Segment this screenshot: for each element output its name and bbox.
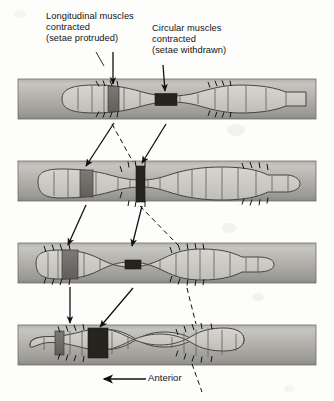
longitudinal-band-4 — [55, 331, 64, 355]
track-2to3-longitudinal — [68, 205, 86, 245]
stage-4 — [18, 323, 316, 365]
circular-band-2 — [136, 166, 145, 202]
label-longitudinal-muscles: Longitudinal muscles contracted (setae p… — [46, 11, 134, 45]
leader-longitudinal-tick — [96, 52, 104, 66]
longitudinal-band-2 — [80, 170, 93, 197]
track-2to3-setae-dashed — [140, 206, 178, 245]
label-anterior: Anterior — [148, 372, 182, 383]
track-4-setae-dashed-tail — [192, 364, 202, 392]
track-2to3-circular — [132, 206, 142, 246]
stage-1 — [18, 79, 316, 119]
circular-band-1 — [155, 94, 177, 106]
track-3to4-setae-dashed — [187, 288, 196, 324]
stage-2 — [18, 161, 316, 207]
label-circular-muscles: Circular muscles contracted (setae withd… — [152, 23, 226, 57]
earthworm-locomotion-figure — [0, 0, 334, 401]
track-3to4-circular — [100, 288, 133, 327]
longitudinal-band-3 — [62, 250, 78, 279]
track-1to2-longitudinal — [86, 123, 114, 166]
track-1to2-circular — [142, 124, 166, 163]
track-1to2-setae-dashed — [112, 124, 133, 162]
circular-band-4 — [88, 328, 108, 358]
circular-band-3 — [125, 260, 141, 269]
longitudinal-band-1 — [108, 87, 119, 112]
stage-3 — [18, 243, 316, 286]
